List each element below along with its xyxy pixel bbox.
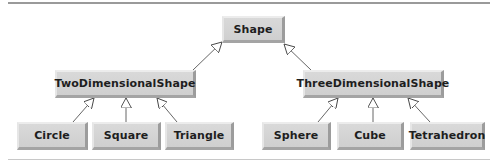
class-label: Triangle <box>174 129 225 142</box>
class-circle: Circle <box>17 122 88 150</box>
class-label: TwoDimensionalShape <box>55 77 196 90</box>
bottom-rule <box>8 159 490 160</box>
class-label: Square <box>104 129 149 142</box>
class-tetrahedron: Tetrahedron <box>410 122 485 150</box>
class-sphere: Sphere <box>262 122 331 150</box>
edge-circle-to-two <box>73 98 94 122</box>
edge-sphere-to-three <box>318 98 338 122</box>
class-label: Tetrahedron <box>409 129 486 142</box>
edge-three-to-shape <box>284 44 311 70</box>
class-label: Shape <box>233 23 272 36</box>
class-square: Square <box>92 122 161 150</box>
class-three-dimensional-shape: ThreeDimensionalShape <box>303 70 444 98</box>
edge-two-to-shape <box>193 42 222 70</box>
class-label: Sphere <box>274 129 319 142</box>
class-two-dimensional-shape: TwoDimensionalShape <box>55 70 196 98</box>
edge-tetrahedron-to-three <box>408 98 430 122</box>
class-shape: Shape <box>222 16 285 43</box>
edge-triangle-to-two <box>157 98 177 122</box>
class-label: Cube <box>354 129 386 142</box>
class-label: ThreeDimensionalShape <box>297 77 450 90</box>
class-triangle: Triangle <box>165 122 234 150</box>
class-label: Circle <box>34 129 70 142</box>
class-cube: Cube <box>337 122 404 150</box>
